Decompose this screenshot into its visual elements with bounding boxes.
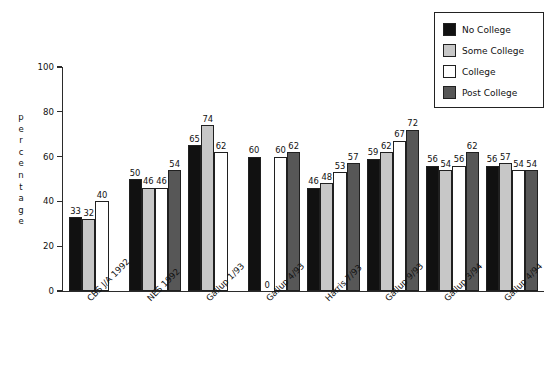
- y-axis-tick: [57, 111, 62, 112]
- bar-value-label: 50: [126, 169, 145, 178]
- bar[interactable]: [274, 157, 287, 291]
- x-axis-line: [62, 291, 544, 292]
- bar[interactable]: [426, 166, 439, 291]
- bar[interactable]: [320, 183, 333, 291]
- bar-value-label: 62: [211, 142, 230, 151]
- y-axis-title-letter: p: [14, 112, 28, 124]
- bar-value-label: 60: [245, 146, 264, 155]
- bar[interactable]: [69, 217, 82, 291]
- bar[interactable]: [439, 170, 452, 291]
- bar[interactable]: [307, 188, 320, 291]
- bar-group: 657462: [188, 67, 241, 291]
- bar-value-label: 54: [165, 160, 184, 169]
- bar[interactable]: [367, 159, 380, 291]
- legend-item[interactable]: Some College: [443, 40, 543, 61]
- bar[interactable]: [393, 141, 406, 291]
- y-axis-tick: [57, 290, 62, 291]
- bar[interactable]: [129, 179, 142, 291]
- bar-value-label: 74: [198, 115, 217, 124]
- bar-chart: percentage 020406080100 3332405046465465…: [0, 0, 558, 374]
- bar-value-label: 62: [284, 142, 303, 151]
- bar-group: 59626772: [367, 67, 420, 291]
- bar[interactable]: [380, 152, 393, 291]
- legend-item[interactable]: Post College: [443, 82, 543, 103]
- legend-swatch-icon: [443, 44, 456, 57]
- bar-value-label: 72: [403, 119, 422, 128]
- y-axis-tick-label: 60: [28, 152, 54, 162]
- legend-item-label: Post College: [462, 88, 517, 98]
- y-axis-tick-label: 20: [28, 241, 54, 251]
- y-axis-tick: [57, 66, 62, 67]
- bar-value-label: 54: [522, 160, 541, 169]
- y-axis-title: percentage: [14, 112, 28, 228]
- y-axis-title-letter: t: [14, 182, 28, 194]
- bar-value-label: 57: [344, 153, 363, 162]
- bar[interactable]: [248, 157, 261, 291]
- y-axis-title-letter: e: [14, 216, 28, 228]
- legend-item[interactable]: No College: [443, 19, 543, 40]
- bar[interactable]: [188, 145, 201, 291]
- bar-group: 50464654: [129, 67, 182, 291]
- bar[interactable]: [82, 219, 95, 291]
- y-axis-title-letter: n: [14, 170, 28, 182]
- bar[interactable]: [142, 188, 155, 291]
- bar[interactable]: [486, 166, 499, 291]
- bar-value-label: 40: [92, 191, 111, 200]
- bar[interactable]: [512, 170, 525, 291]
- bar-value-label: 62: [463, 142, 482, 151]
- y-axis-tick-label: 80: [28, 107, 54, 117]
- y-axis-tick: [57, 201, 62, 202]
- bar[interactable]: [214, 152, 227, 291]
- legend-item-label: Some College: [462, 46, 524, 56]
- bar[interactable]: [452, 166, 465, 291]
- y-axis-tick-label: 100: [28, 62, 54, 72]
- y-axis-tick-label: 40: [28, 196, 54, 206]
- y-axis-tick-label: 0: [28, 286, 54, 296]
- bar-group: 46485357: [307, 67, 360, 291]
- bar-group: 333240: [69, 67, 122, 291]
- legend: No CollegeSome CollegeCollegePost Colleg…: [434, 12, 544, 108]
- legend-item[interactable]: College: [443, 61, 543, 82]
- y-axis-title-letter: c: [14, 147, 28, 159]
- y-axis-title-letter: r: [14, 135, 28, 147]
- legend-item-label: College: [462, 67, 496, 77]
- y-axis-tick: [57, 246, 62, 247]
- bar-group: 6006062: [248, 67, 301, 291]
- y-axis-title-letter: a: [14, 193, 28, 205]
- legend-item-label: No College: [462, 25, 511, 35]
- legend-swatch-icon: [443, 23, 456, 36]
- legend-swatch-icon: [443, 65, 456, 78]
- y-axis-tick: [57, 156, 62, 157]
- legend-swatch-icon: [443, 86, 456, 99]
- bar[interactable]: [499, 163, 512, 291]
- y-axis-title-letter: e: [14, 158, 28, 170]
- y-axis-title-letter: g: [14, 205, 28, 217]
- y-axis-title-letter: e: [14, 124, 28, 136]
